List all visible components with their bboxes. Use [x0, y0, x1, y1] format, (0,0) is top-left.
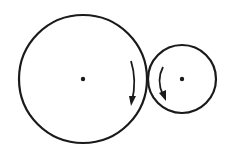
arrowhead-icon — [159, 90, 166, 101]
small-wheel — [148, 45, 216, 113]
counterclockwise-arrow-icon — [160, 67, 164, 95]
gear-diagram — [0, 0, 241, 155]
large-wheel — [19, 15, 147, 143]
large-wheel-center-dot — [81, 77, 85, 81]
small-wheel-center-dot — [180, 77, 184, 81]
arrowhead-icon — [129, 96, 136, 106]
clockwise-arrow-icon — [131, 61, 134, 101]
